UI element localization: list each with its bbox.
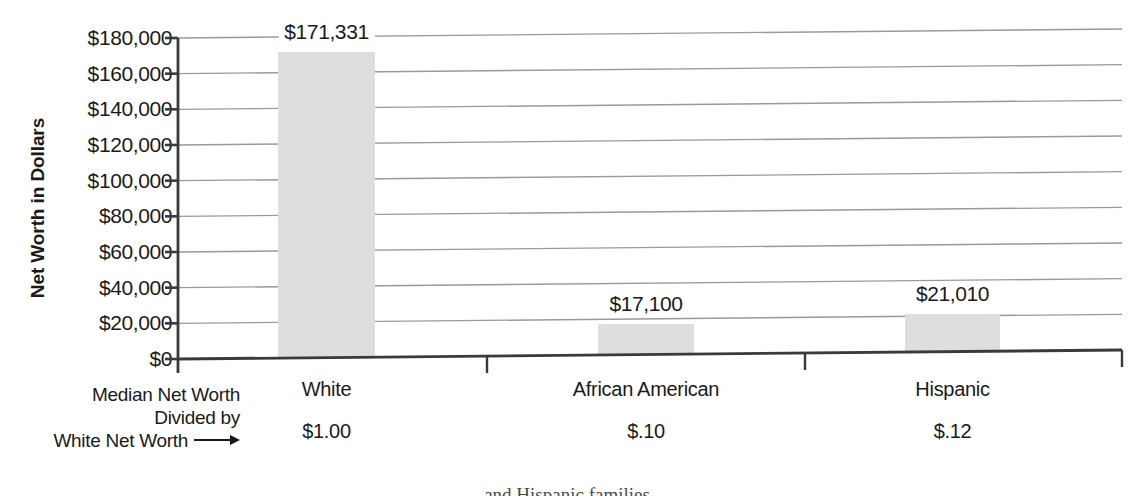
x-axis-category-label: Hispanic	[915, 378, 989, 401]
bar-value-label: $21,010	[910, 282, 995, 306]
ratio-row-caption: Median Net Worth Divided by White Net Wo…	[0, 383, 240, 452]
ratio-caption-line-1: Median Net Worth	[0, 383, 240, 406]
bar	[278, 52, 375, 358]
ratio-caption-line-3-wrap: White Net Worth	[0, 429, 240, 452]
bar-value-label: $17,100	[603, 292, 688, 316]
ratio-caption-line-3: White Net Worth	[53, 430, 188, 451]
ratio-value: $.10	[627, 420, 665, 443]
ratio-value: $.12	[934, 420, 972, 443]
x-axis-category-label: African American	[573, 378, 719, 401]
y-axis-ticks	[165, 38, 178, 359]
bar	[598, 324, 694, 354]
x-axis-category-dividers	[487, 350, 1122, 373]
ratio-value: $1.00	[302, 420, 351, 443]
right-arrow-icon	[194, 435, 240, 445]
figure-source-caption: and Hispanic families	[0, 484, 1134, 496]
bar-value-label: $171,331	[278, 20, 374, 44]
x-axis-category-label: White	[302, 378, 352, 401]
net-worth-bar-chart: Net Worth in Dollars $0$20,000$40,000$60…	[0, 0, 1134, 496]
bar	[905, 314, 1000, 351]
ratio-caption-line-2: Divided by	[0, 406, 240, 429]
